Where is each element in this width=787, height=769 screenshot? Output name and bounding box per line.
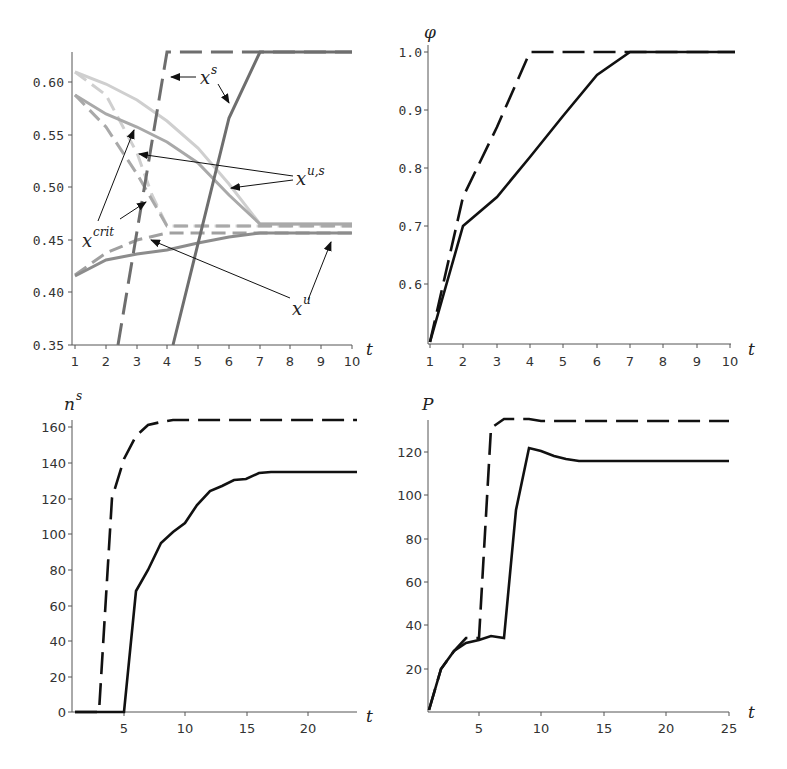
chart-bottom-right: 120 100 80 60 40 20 P 5 10 15 20 25 t (397, 394, 755, 736)
series-solid (75, 472, 357, 712)
y-axis-title: P (421, 394, 434, 414)
y-tick-label: 80 (405, 532, 422, 547)
y-tick-label: 0.45 (33, 233, 64, 248)
x-tick-label: 20 (658, 721, 675, 736)
x-tick-label: 6 (225, 354, 233, 369)
y-tick-label: 0.55 (33, 128, 64, 143)
y-tick-label: 100 (41, 527, 66, 542)
svg-text:x: x (200, 67, 210, 88)
x-axis-title: t (748, 702, 755, 722)
x-ticks (430, 344, 730, 348)
y-tick-label: 60 (49, 599, 66, 614)
x-tick-label: 8 (286, 354, 294, 369)
series-xs-solid (173, 52, 352, 345)
series-solid (429, 448, 729, 710)
y-tick-label: 0.9 (399, 103, 422, 118)
series-xus-dashed (75, 95, 352, 226)
x-tick-label: 4 (163, 354, 171, 369)
y-tick-label: 0.7 (399, 219, 422, 234)
x-tick-label: 8 (659, 354, 667, 369)
x-tick-label: 15 (596, 721, 613, 736)
annotation-xu: x u (151, 240, 331, 319)
y-ticks (424, 452, 428, 669)
x-tick-label: 20 (300, 721, 317, 736)
x-ticks (479, 712, 729, 716)
figure-canvas: 0.60 0.55 0.50 0.45 0.40 0.35 1 2 3 4 5 … (0, 0, 787, 769)
y-ticks (68, 427, 72, 712)
annotation-xus: x u,s (139, 154, 325, 189)
y-tick-label: 0.50 (33, 180, 64, 195)
y-axis-title: φ (424, 22, 436, 42)
y-tick-label: 0 (58, 705, 66, 720)
x-tick-label: 1 (71, 354, 79, 369)
x-tick-label: 3 (493, 354, 501, 369)
series-xu-solid (75, 233, 352, 276)
x-tick-label: 1 (426, 354, 434, 369)
svg-text:crit: crit (93, 225, 114, 239)
y-tick-label: 1.0 (399, 45, 422, 60)
x-tick-label: 10 (177, 721, 194, 736)
series-dashed (75, 420, 357, 712)
y-tick-label: 20 (405, 662, 422, 677)
x-tick-label: 9 (317, 354, 325, 369)
annotation-xs: x s (171, 63, 229, 103)
y-tick-label: 80 (49, 563, 66, 578)
x-ticks (75, 345, 352, 349)
x-tick-label: 4 (526, 354, 534, 369)
y-tick-label: 60 (405, 575, 422, 590)
x-tick-label: 5 (559, 354, 567, 369)
x-axis-title: t (366, 706, 373, 726)
y-tick-label: 100 (397, 488, 422, 503)
y-tick-label: 120 (41, 492, 66, 507)
series-solid (430, 52, 735, 342)
y-tick-label: 0.35 (33, 338, 64, 353)
y-ticks (68, 82, 72, 345)
svg-text:x: x (82, 230, 92, 251)
y-axis-title: n (64, 394, 75, 414)
svg-text:x: x (296, 168, 306, 189)
chart-bottom-left: 160 140 120 100 80 60 40 20 0 n s 5 10 1… (41, 389, 373, 736)
x-tick-label: 25 (721, 721, 738, 736)
x-tick-label: 7 (626, 354, 634, 369)
x-ticks (124, 712, 308, 716)
series-xcrit-dashed (75, 72, 352, 226)
x-tick-label: 2 (459, 354, 467, 369)
y-tick-label: 120 (397, 445, 422, 460)
y-tick-label: 40 (49, 634, 66, 649)
y-tick-label: 20 (49, 670, 66, 685)
x-tick-label: 6 (593, 354, 601, 369)
chart-top-right: 1.0 0.9 0.8 0.7 0.6 φ 1 2 3 4 5 6 7 8 9 … (399, 22, 755, 369)
y-tick-label: 0.60 (33, 75, 64, 90)
series-xcrit-solid (75, 72, 352, 224)
series-dashed (429, 419, 729, 710)
chart-top-left: 0.60 0.55 0.50 0.45 0.40 0.35 1 2 3 4 5 … (33, 52, 373, 369)
y-axis-title-sup: s (76, 389, 82, 403)
x-tick-label: 5 (194, 354, 202, 369)
x-axis-title: t (366, 339, 373, 359)
x-tick-label: 3 (133, 354, 141, 369)
y-tick-label: 160 (41, 420, 66, 435)
svg-text:x: x (292, 298, 302, 319)
y-ticks (424, 52, 428, 284)
series-dashed (430, 52, 735, 342)
y-tick-label: 0.40 (33, 285, 64, 300)
y-tick-label: 0.6 (399, 277, 422, 292)
svg-text:s: s (211, 63, 217, 77)
x-tick-label: 15 (239, 721, 256, 736)
x-tick-label: 5 (120, 721, 128, 736)
x-tick-label: 10 (722, 354, 739, 369)
x-tick-label: 2 (102, 354, 110, 369)
series-xus-solid (75, 95, 352, 224)
x-tick-label: 5 (475, 721, 483, 736)
x-tick-label: 7 (256, 354, 264, 369)
x-tick-label: 10 (533, 721, 550, 736)
x-axis-title: t (748, 339, 755, 359)
y-tick-label: 40 (405, 618, 422, 633)
y-tick-label: 0.8 (399, 161, 422, 176)
svg-text:u,s: u,s (307, 164, 325, 178)
y-tick-label: 140 (41, 456, 66, 471)
x-tick-label: 9 (693, 354, 701, 369)
x-tick-label: 10 (344, 354, 361, 369)
